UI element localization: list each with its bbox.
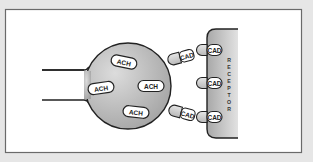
svg-text:E: E bbox=[227, 64, 231, 70]
cad-bound: CAD bbox=[197, 78, 223, 89]
svg-text:R: R bbox=[227, 106, 231, 112]
svg-text:P: P bbox=[227, 85, 231, 91]
diagram-stage: ACH ACH ACH ACH R E C E P T O R bbox=[0, 0, 313, 162]
ach-vesicle: ACH bbox=[138, 81, 164, 92]
svg-text:CAD: CAD bbox=[207, 47, 221, 54]
cad-bound: CAD bbox=[197, 112, 223, 123]
nerve-synapse-diagram: ACH ACH ACH ACH R E C E P T O R bbox=[0, 0, 313, 162]
ach-vesicle: ACH bbox=[122, 105, 149, 119]
svg-text:CAD: CAD bbox=[207, 80, 221, 87]
svg-text:ACH: ACH bbox=[129, 108, 144, 116]
svg-text:R: R bbox=[227, 57, 231, 63]
cad-bound: CAD bbox=[197, 45, 223, 56]
svg-text:ACH: ACH bbox=[144, 83, 158, 90]
svg-text:E: E bbox=[227, 78, 231, 84]
svg-text:C: C bbox=[227, 71, 231, 77]
svg-text:O: O bbox=[227, 99, 231, 105]
svg-text:CAD: CAD bbox=[207, 114, 221, 121]
